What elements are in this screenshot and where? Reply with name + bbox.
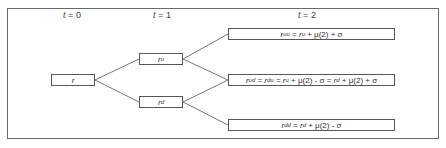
op: = <box>274 76 283 85</box>
time-eq: = <box>156 10 166 20</box>
edge-up-uu <box>183 34 228 59</box>
edge-root-up <box>95 59 139 80</box>
edge-up-ud <box>183 59 228 80</box>
node-ud: rud = rdu = ru + μ(2) - σ = rd + μ(2) + … <box>228 74 395 86</box>
node-dd: rdd = rd + μ(2) - σ <box>228 119 395 131</box>
edge-down-dd <box>183 102 228 125</box>
time-label-t1: t = 1 <box>153 10 171 20</box>
time-value: 2 <box>311 10 316 20</box>
op: = <box>291 121 300 130</box>
op: = <box>290 30 299 39</box>
time-label-t0: t = 0 <box>63 10 81 20</box>
time-eq: = <box>301 10 311 20</box>
time-eq: = <box>66 10 76 20</box>
op: = <box>255 76 264 85</box>
edge-down-ud <box>183 80 228 102</box>
time-label-t2: t = 2 <box>298 10 316 20</box>
node-root: r <box>51 74 95 86</box>
edge-root-down <box>95 80 139 102</box>
op: + μ(2) - σ <box>306 121 342 130</box>
time-value: 1 <box>166 10 171 20</box>
time-value: 0 <box>76 10 81 20</box>
op: + μ(2) + σ <box>340 76 378 85</box>
node-label: r <box>72 76 75 85</box>
op: + μ(2) + σ <box>305 30 343 39</box>
node-down: rd <box>139 96 183 108</box>
op: + μ(2) - σ = <box>289 76 334 85</box>
node-up: ru <box>139 53 183 65</box>
node-uu: ruu = ru + μ(2) + σ <box>228 28 395 40</box>
